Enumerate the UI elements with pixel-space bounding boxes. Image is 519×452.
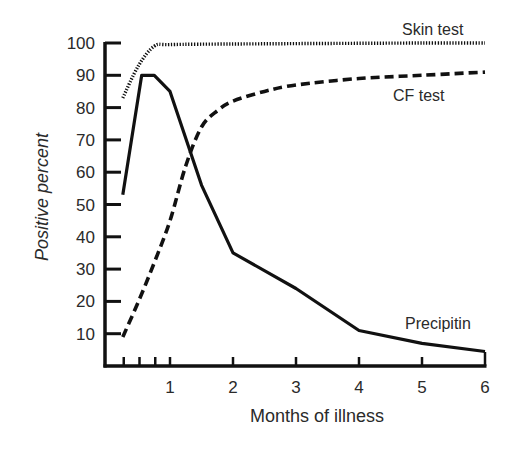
y-tick-label: 60: [76, 163, 95, 182]
y-tick-label: 70: [76, 131, 95, 150]
y-tick-label: 20: [76, 292, 95, 311]
y-axis-title: Positive percent: [32, 132, 52, 261]
line-chart: 102030405060708090100 123456 Skin test C…: [0, 0, 519, 452]
y-tick-label: 80: [76, 99, 95, 118]
x-axis: 123456: [104, 352, 490, 397]
y-tick-label: 50: [76, 196, 95, 215]
y-tick-label: 10: [76, 325, 95, 344]
x-tick-label: 6: [480, 378, 489, 397]
x-tick-label: 1: [165, 378, 174, 397]
x-tick-label: 3: [291, 378, 300, 397]
cf-test-label: CF test: [393, 87, 445, 104]
y-tick-label: 30: [76, 260, 95, 279]
x-tick-label: 4: [354, 378, 363, 397]
precipitin-label: Precipitin: [405, 315, 471, 332]
x-tick-label: 5: [417, 378, 426, 397]
precipitin-line: [123, 75, 485, 351]
x-tick-label: 2: [228, 378, 237, 397]
y-tick-label: 90: [76, 66, 95, 85]
y-tick-label: 40: [76, 228, 95, 247]
y-tick-label: 100: [67, 34, 95, 53]
y-axis: 102030405060708090100: [67, 34, 121, 368]
x-axis-title: Months of illness: [250, 406, 384, 426]
skin-test-label: Skin test: [402, 21, 464, 38]
